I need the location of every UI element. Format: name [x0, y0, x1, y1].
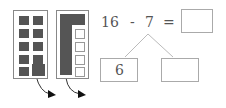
decomposition-right-box[interactable] — [161, 58, 199, 82]
counter — [33, 55, 43, 64]
ten-frame-left — [13, 10, 48, 79]
filled-column — [60, 14, 72, 75]
counter-highlight — [32, 64, 45, 76]
counter — [33, 16, 43, 25]
counter — [33, 42, 43, 51]
counter — [19, 29, 29, 38]
counter — [19, 42, 29, 51]
answer-box[interactable] — [181, 9, 213, 33]
empty-cell — [75, 55, 85, 65]
counter — [19, 55, 29, 64]
equals-sign: = — [163, 15, 175, 29]
counter — [19, 16, 29, 25]
decomposition-left-box[interactable]: 6 — [100, 58, 138, 82]
empty-cell — [75, 29, 85, 39]
counter — [33, 29, 43, 38]
empty-cell — [75, 42, 85, 52]
counter — [19, 67, 29, 76]
decomposition-left-value: 6 — [115, 63, 124, 77]
minus-sign: - — [130, 15, 135, 29]
ten-frame-right — [56, 10, 89, 79]
subtrahend: 7 — [145, 15, 154, 29]
empty-cell — [75, 67, 85, 77]
minuend: 16 — [101, 15, 119, 29]
